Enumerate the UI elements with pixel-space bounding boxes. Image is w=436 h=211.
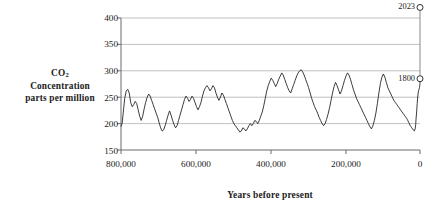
- annotation-marker-2023: [417, 4, 423, 10]
- y-tick-label-250: 250: [92, 94, 118, 103]
- x-axis-title: Years before present: [120, 190, 420, 200]
- y-axis-title-line-2: Concentration: [8, 81, 112, 93]
- y-tick-label-200: 200: [92, 120, 118, 129]
- annotation-markers: [417, 4, 423, 81]
- y-tick-label-150: 150: [92, 147, 118, 156]
- co2-concentration-chart: CO2 Concentration parts per million 400 …: [0, 0, 436, 211]
- axis-lines: [121, 18, 420, 150]
- y-axis-title-subscript: 2: [65, 71, 68, 78]
- annotation-label-1800: 1800: [398, 75, 415, 83]
- x-tick-label-400000: 400,000: [256, 160, 286, 169]
- x-tick-label-0: 0: [418, 160, 423, 169]
- y-axis-title-molecule: CO: [51, 68, 65, 78]
- annotation-marker-1800: [417, 76, 423, 82]
- annotation-label-2023: 2023: [398, 3, 415, 11]
- gridlines: [121, 18, 420, 124]
- y-tick-label-300: 300: [92, 67, 118, 76]
- y-tick-label-350: 350: [92, 40, 118, 49]
- x-tick-label-800000: 800,000: [106, 160, 136, 169]
- x-tick-label-600000: 600,000: [181, 160, 211, 169]
- x-tick-label-200000: 200,000: [331, 160, 361, 169]
- co2-record-line: [121, 70, 420, 132]
- plot-area: [0, 0, 436, 211]
- y-tick-label-400: 400: [92, 14, 118, 23]
